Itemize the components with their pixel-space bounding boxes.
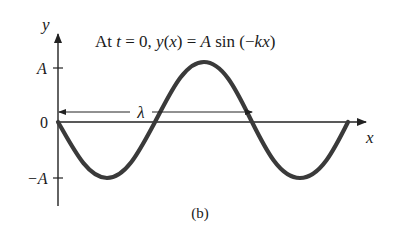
y-axis-label: y xyxy=(40,15,50,34)
tick-label-A: A xyxy=(36,60,47,77)
x-axis-label: x xyxy=(365,128,374,147)
figure-title: At t = 0, y(x) = A sin (−kx) xyxy=(95,32,275,51)
figure-caption: (b) xyxy=(191,205,209,222)
tick-label-minus-A: −A xyxy=(27,170,48,187)
wave-diagram: λ y x A 0 −A At t = 0, y(x) = A sin (−kx… xyxy=(0,0,398,241)
tick-label-zero: 0 xyxy=(40,114,48,131)
wavelength-label: λ xyxy=(136,103,144,122)
sine-wave-curve xyxy=(58,62,348,178)
